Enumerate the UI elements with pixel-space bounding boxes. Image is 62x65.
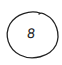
number-badge[interactable]: 8 bbox=[0, 0, 62, 65]
badge-number: 8 bbox=[24, 27, 37, 40]
